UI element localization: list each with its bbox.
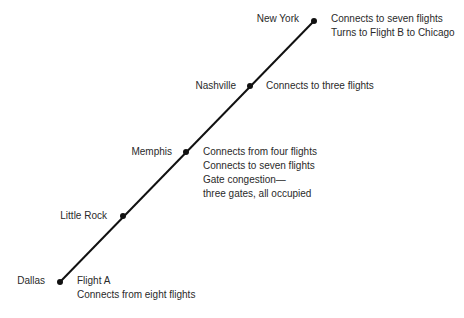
detail-line: Connects to seven flights	[203, 159, 317, 173]
stop-dot-new-york	[311, 18, 317, 24]
city-label-little-rock: Little Rock	[60, 209, 107, 223]
detail-line: Connects from eight flights	[77, 288, 195, 302]
stop-details-nashville: Connects to three flights	[266, 79, 374, 93]
city-label-dallas: Dallas	[17, 274, 45, 288]
city-label-memphis: Memphis	[131, 145, 172, 159]
detail-line: Gate congestion—	[203, 173, 317, 187]
detail-line: Flight A	[77, 274, 195, 288]
city-label-new-york: New York	[257, 12, 299, 26]
detail-line: Connects to three flights	[266, 79, 374, 93]
city-label-nashville: Nashville	[195, 79, 236, 93]
detail-line: Connects to seven flights	[331, 12, 455, 26]
stop-dot-memphis	[183, 149, 189, 155]
stop-dot-nashville	[247, 83, 253, 89]
detail-line: Turns to Flight B to Chicago	[331, 26, 455, 40]
stop-details-new-york: Connects to seven flights Turns to Fligh…	[331, 12, 455, 40]
stop-dot-little-rock	[120, 213, 126, 219]
stop-dot-dallas	[57, 279, 63, 285]
stop-details-dallas: Flight A Connects from eight flights	[77, 274, 195, 302]
stop-details-memphis: Connects from four flights Connects to s…	[203, 145, 317, 201]
detail-line: three gates, all occupied	[203, 187, 317, 201]
detail-line: Connects from four flights	[203, 145, 317, 159]
